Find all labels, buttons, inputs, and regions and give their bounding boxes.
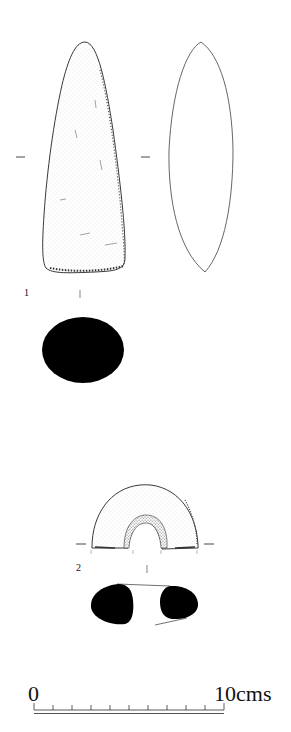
fig2-base-ticks [91,550,197,554]
fig2-face-view [92,485,198,549]
fig1-side-profile [169,42,233,272]
fig1-face-view [43,42,125,273]
figure-1-label: 1 [24,287,29,298]
fig2-cross-section [91,584,198,625]
scale-start-label: 0 [28,683,39,705]
scale-bar [34,703,224,714]
fig1-cross-section [42,317,124,383]
figure-2-label: 2 [76,562,81,573]
scale-end-label: 10cms [214,683,271,705]
plate-svg [0,0,291,732]
drawing-plate: 1 2 0 10cms [0,0,291,732]
